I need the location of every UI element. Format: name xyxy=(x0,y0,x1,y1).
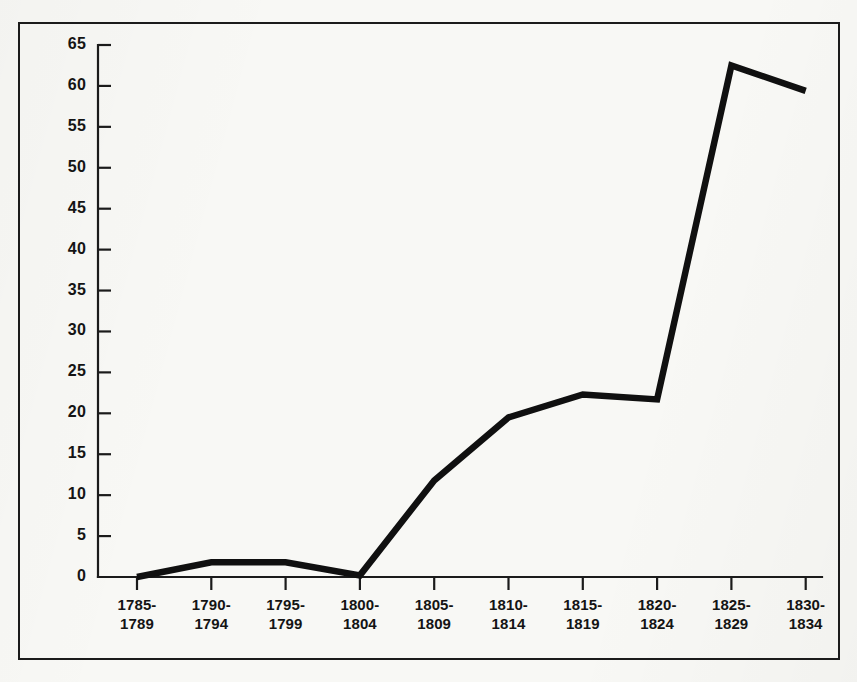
x-axis-tick-label-line: 1809 xyxy=(393,614,475,633)
y-axis-ticks xyxy=(98,45,111,536)
x-axis-tick-label-line: 1805- xyxy=(393,595,475,614)
x-axis-tick-label-line: 1800- xyxy=(319,595,401,614)
x-axis-tick-label-line: 1829 xyxy=(690,614,772,633)
y-axis-tick-label: 25 xyxy=(42,362,86,380)
y-axis-tick-label: 55 xyxy=(42,117,86,135)
y-axis-tick-label: 45 xyxy=(42,199,86,217)
x-axis-tick-label-line: 1824 xyxy=(616,614,698,633)
x-axis-tick-label: 1825-1829 xyxy=(690,595,772,633)
x-axis-tick-label: 1820-1824 xyxy=(616,595,698,633)
x-axis-tick-label: 1810-1814 xyxy=(468,595,550,633)
x-axis-tick-label-line: 1819 xyxy=(542,614,624,633)
x-axis-tick-label-line: 1794 xyxy=(170,614,252,633)
x-axis-tick-label-line: 1834 xyxy=(765,614,847,633)
x-axis-tick-label: 1815-1819 xyxy=(542,595,624,633)
x-axis-tick-label-line: 1790- xyxy=(170,595,252,614)
x-axis-tick-label-line: 1810- xyxy=(468,595,550,614)
x-axis-tick-label-line: 1804 xyxy=(319,614,401,633)
y-axis-tick-label: 40 xyxy=(42,240,86,258)
y-axis-tick-label: 20 xyxy=(42,403,86,421)
y-axis-tick-label: 65 xyxy=(42,35,86,53)
x-axis-tick-label-line: 1825- xyxy=(690,595,772,614)
x-axis-tick-label-line: 1830- xyxy=(765,595,847,614)
y-axis-tick-label: 30 xyxy=(42,321,86,339)
y-axis-tick-label: 35 xyxy=(42,281,86,299)
y-axis-tick-label: 10 xyxy=(42,485,86,503)
x-axis-tick-label-line: 1785- xyxy=(96,595,178,614)
y-axis-tick-label: 0 xyxy=(42,567,86,585)
data-series-line xyxy=(137,65,806,577)
x-axis-tick-label: 1805-1809 xyxy=(393,595,475,633)
x-axis-tick-label: 1795-1799 xyxy=(245,595,327,633)
x-axis-tick-label-line: 1795- xyxy=(245,595,327,614)
y-axis xyxy=(98,45,111,577)
x-axis-tick-label: 1830-1834 xyxy=(765,595,847,633)
x-axis-tick-label: 1790-1794 xyxy=(170,595,252,633)
x-axis xyxy=(98,577,822,590)
chart-figure: 05101520253035404550556065 1785-17891790… xyxy=(0,0,857,682)
x-axis-tick-label-line: 1820- xyxy=(616,595,698,614)
x-axis-tick-label-line: 1789 xyxy=(96,614,178,633)
x-axis-ticks xyxy=(137,577,806,590)
y-axis-tick-label: 60 xyxy=(42,76,86,94)
y-axis-tick-label: 15 xyxy=(42,444,86,462)
x-axis-tick-label: 1785-1789 xyxy=(96,595,178,633)
x-axis-tick-label-line: 1814 xyxy=(468,614,550,633)
x-axis-tick-label: 1800-1804 xyxy=(319,595,401,633)
y-axis-tick-label: 50 xyxy=(42,158,86,176)
line-chart-plot xyxy=(0,0,857,682)
x-axis-tick-label-line: 1815- xyxy=(542,595,624,614)
y-axis-tick-label: 5 xyxy=(42,526,86,544)
x-axis-tick-label-line: 1799 xyxy=(245,614,327,633)
